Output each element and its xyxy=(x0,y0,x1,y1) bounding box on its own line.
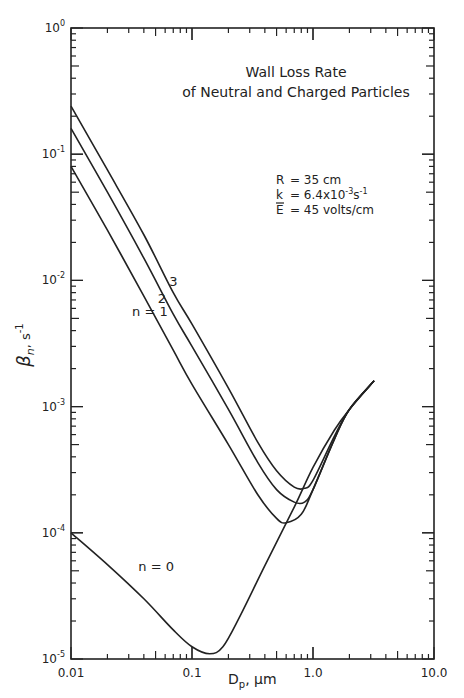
param-symbol: k xyxy=(276,188,283,202)
plot-frame xyxy=(71,28,434,659)
curve-n-3 xyxy=(71,106,374,489)
svg-text:Dp, µm: Dp, µm xyxy=(228,671,277,690)
x-tick-label: 10.0 xyxy=(421,666,448,680)
x-tick-label: 0.01 xyxy=(58,666,85,680)
param-symbol: R xyxy=(276,173,284,187)
series-label-n-3: 3 xyxy=(169,274,177,289)
y-tick-label: 10-2 xyxy=(42,271,65,287)
series-label-n-0: n = 0 xyxy=(138,559,174,574)
param-value: = 35 cm xyxy=(290,173,341,187)
x-tick-label: 0.1 xyxy=(182,666,201,680)
x-tick-label: 1.0 xyxy=(303,666,322,680)
axis-labels: 0.010.11.010.010010-110-210-310-410-5n =… xyxy=(42,19,448,680)
y-tick-label: 100 xyxy=(45,19,65,35)
chart-subtitle: of Neutral and Charged Particles xyxy=(182,84,409,100)
curve-n-0 xyxy=(71,381,374,654)
axis-ticks xyxy=(71,28,434,659)
wall-loss-rate-chart: 0.010.11.010.010010-110-210-310-410-5n =… xyxy=(0,0,464,698)
param-value: = 6.4x10-3s-1 xyxy=(290,187,368,202)
chart-title: Wall Loss Rate xyxy=(245,64,346,80)
series-label-n-2: 2 xyxy=(158,291,166,306)
parameter-annotations: R= 35 cmk= 6.4x10-3s-1E= 45 volts/cm xyxy=(276,173,374,217)
series-label-n-1: n = 1 xyxy=(132,304,168,319)
x-axis-title: Dp, µm xyxy=(228,671,277,690)
param-symbol: E xyxy=(276,203,284,217)
y-axis-title: βn, s-1 xyxy=(13,323,37,368)
y-tick-label: 10-5 xyxy=(42,650,65,666)
param-value: = 45 volts/cm xyxy=(290,203,374,217)
svg-text:βn, s-1: βn, s-1 xyxy=(13,323,37,368)
y-tick-label: 10-3 xyxy=(42,398,65,414)
y-tick-label: 10-1 xyxy=(42,145,65,161)
curve-n-1 xyxy=(71,166,374,523)
y-tick-label: 10-4 xyxy=(42,524,65,540)
